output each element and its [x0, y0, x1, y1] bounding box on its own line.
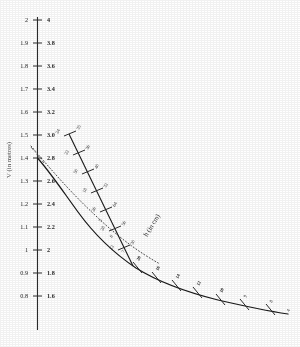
- curve-label-8: 6: [108, 233, 114, 238]
- y-tick-left-4: 1.6: [20, 108, 28, 115]
- curve-label-0: 20: [135, 254, 142, 261]
- y-tick-right-3: 3.4: [47, 85, 55, 92]
- y-tick-right-8: 2.4: [47, 200, 55, 207]
- y-tick-right-1: 3.8: [47, 39, 55, 46]
- y-axis-right-tick-labels: 4 3.8 3.6 3.4 3.2 3.0 2.8 2.6 2.4 2.2 2 …: [47, 16, 55, 299]
- curve-label-2: 14: [174, 272, 181, 279]
- curve-label-6: 8: [268, 298, 274, 303]
- y-tick-left-10: 1: [25, 246, 28, 253]
- y-tick-left-8: 1.2: [20, 200, 28, 207]
- y-tick-left-3: 1.7: [20, 85, 28, 92]
- y-tick-left-11: 0.9: [20, 269, 28, 276]
- tilted-label-left-0: 24: [54, 127, 61, 134]
- tilted-label-right-4: 64: [111, 200, 118, 207]
- curve-label-3: 12: [195, 279, 202, 286]
- y-tick-left-2: 1.8: [20, 62, 28, 69]
- y-tick-left-12: 0.8: [20, 292, 28, 299]
- curve-point-labels: 20 16 14 12 10 9 8 7 6 5 4: [97, 217, 291, 312]
- measured-curve: [38, 158, 289, 314]
- tilted-axis-group: 24 35 22 36 50 40 18 32 26 64 28 56 12 3…: [54, 123, 136, 266]
- graph-figure: 2 1.9 1.8 1.7 1.6 1.5 1.4 1.3 1.2 1.1 1 …: [0, 0, 300, 347]
- y-axis-left-tick-labels: 2 1.9 1.8 1.7 1.6 1.5 1.4 1.3 1.2 1.1 1 …: [20, 16, 28, 299]
- tilted-label-right-2: 40: [93, 162, 100, 169]
- y-tick-right-11: 1.8: [47, 269, 55, 276]
- tilted-label-right-1: 36: [84, 143, 91, 150]
- tilted-label-left-2: 50: [72, 167, 79, 174]
- y-tick-right-6: 2.8: [47, 154, 55, 161]
- tilted-label-left-4: 26: [90, 205, 97, 212]
- y-tick-left-7: 1.3: [20, 177, 28, 184]
- tilted-label-left-1: 22: [63, 148, 70, 155]
- y-tick-right-9: 2.2: [47, 223, 55, 230]
- y-tick-right-12: 1.6: [47, 292, 55, 299]
- y-tick-right-2: 3.6: [47, 62, 55, 69]
- tilted-label-left-6: 12: [108, 243, 115, 250]
- curve-label-1: 16: [154, 264, 161, 271]
- x-axis-label: h (in cm): [142, 213, 162, 238]
- tilted-label-right-6: 30: [129, 238, 136, 245]
- tilted-label-left-3: 18: [81, 186, 88, 193]
- y-tick-right-4: 3.2: [47, 108, 55, 115]
- curve-label-10: 4: [285, 307, 291, 312]
- curve-label-9: 5: [97, 217, 103, 222]
- tilted-label-left-5: 28: [99, 224, 106, 231]
- tilted-axis-ticks: [64, 131, 130, 250]
- y-axis: 2 1.9 1.8 1.7 1.6 1.5 1.4 1.3 1.2 1.1 1 …: [5, 16, 55, 330]
- y-tick-right-10: 2: [47, 246, 50, 253]
- data-curve-group: [38, 158, 289, 314]
- y-tick-left-9: 1.1: [20, 223, 28, 230]
- y-axis-label: V (in metres): [5, 142, 13, 178]
- curve-label-5: 9: [242, 293, 248, 298]
- y-tick-right-0: 4: [47, 16, 50, 23]
- graph-canvas: 2 1.9 1.8 1.7 1.6 1.5 1.4 1.3 1.2 1.1 1 …: [0, 0, 300, 347]
- tilted-axis-line: [69, 134, 133, 266]
- y-tick-left-5: 1.5: [20, 131, 28, 138]
- y-tick-left-0: 2: [25, 16, 28, 23]
- y-tick-left-6: 1.4: [20, 154, 28, 161]
- tilted-label-right-0: 35: [75, 123, 82, 130]
- tilted-label-right-5: 56: [120, 219, 127, 226]
- y-tick-left-1: 1.9: [20, 39, 28, 46]
- tilted-label-right-3: 32: [102, 181, 109, 188]
- curve-label-4: 10: [218, 286, 225, 293]
